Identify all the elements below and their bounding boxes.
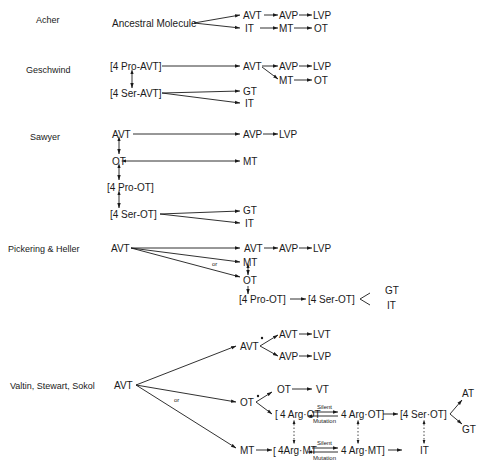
- author-label: Geschwind: [26, 65, 71, 75]
- node-avt: AVT: [279, 329, 298, 340]
- silent-label: Silent: [317, 440, 332, 446]
- arrow: [262, 67, 278, 79]
- node-lvp: LVP: [313, 243, 331, 254]
- node-ancestral-molecule: Ancestral Molecule: [112, 18, 197, 29]
- model-acher: Acher Ancestral Molecule AVT AVP LVP IT …: [36, 10, 331, 34]
- node-at: AT: [462, 388, 474, 399]
- or-label: or: [174, 397, 179, 403]
- node-4-arg-mt: 4 Arg·MT]: [341, 445, 385, 456]
- arrow: [256, 402, 272, 414]
- node-4-pro-ot: [4 Pro-OT]: [107, 182, 154, 193]
- arrow: [136, 346, 236, 385]
- model-geschwind: Geschwind [4 Pro-AVT] [4 Ser-AVT] GT IT …: [26, 61, 331, 109]
- node-4-pro-avt: [4 Pro-AVT]: [110, 61, 162, 72]
- node-lvt: LVT: [313, 329, 331, 340]
- node-4-ser-ot: [4 Ser-OT]: [308, 294, 355, 305]
- arrow: [160, 211, 240, 214]
- author-label: Acher: [36, 15, 60, 25]
- mutation-label: Mutation: [313, 455, 336, 461]
- node-4-arg-mt: 4Arg·MT: [278, 445, 317, 456]
- arrow: [131, 248, 240, 262]
- arrow: [260, 346, 278, 356]
- arrow: [260, 335, 278, 346]
- node-avp: AVP: [279, 61, 299, 72]
- node-ot: OT: [112, 156, 126, 167]
- node-4-arg-ot: 4 Arg·OT]: [341, 409, 385, 420]
- node-4-pro-ot: [4 Pro-OT]: [239, 294, 286, 305]
- node-4-ser-ot: [4 Ser-OT]: [110, 209, 157, 220]
- arrow: [136, 385, 236, 402]
- arrow: [194, 15, 240, 23]
- node-avt: AVT: [111, 243, 130, 254]
- arrow: [136, 385, 236, 448]
- node-lvp: LVP: [279, 129, 297, 140]
- node-it: IT: [420, 445, 429, 456]
- node-ot: OT: [243, 275, 257, 286]
- arrow: [194, 23, 240, 28]
- node-gt: GT: [243, 205, 257, 216]
- node-gt: GT: [385, 285, 399, 296]
- node-lvp: LVP: [313, 61, 331, 72]
- arrow: [160, 214, 240, 223]
- node-avp: AVP: [279, 10, 299, 21]
- silent-label: Silent: [317, 404, 332, 410]
- node-4-ser-ot: [4 Ser·OT]: [400, 409, 447, 420]
- node-gt: GT: [243, 86, 257, 97]
- node-mt: MT: [240, 445, 254, 456]
- dot-marker: [257, 395, 259, 397]
- node-avt: AVT: [244, 243, 263, 254]
- arrow: [450, 400, 462, 414]
- model-sawyer: Sawyer AVT AVP LVP OT MT [4 Pro-OT] [4 S…: [30, 129, 297, 229]
- node-avp: AVP: [243, 129, 263, 140]
- arrow: [162, 93, 240, 103]
- arrow: [450, 414, 462, 424]
- node-it: IT: [245, 23, 254, 34]
- node-it: IT: [245, 98, 254, 109]
- node-ot: OT: [277, 384, 291, 395]
- mutation-label: Mutation: [313, 418, 336, 424]
- author-label: Sawyer: [30, 132, 60, 142]
- node-lvp: LVP: [313, 10, 331, 21]
- node-mt: MT: [279, 75, 293, 86]
- arrow: [131, 248, 240, 277]
- node-avp: AVP: [279, 243, 299, 254]
- node-ot: OT: [240, 397, 254, 408]
- node-vt: VT: [316, 384, 329, 395]
- bracket-open: [: [273, 446, 276, 457]
- node-it: IT: [245, 218, 254, 229]
- node-avt: AVT: [112, 129, 131, 140]
- node-ot: OT: [314, 23, 328, 34]
- evolution-diagram: Acher Ancestral Molecule AVT AVP LVP IT …: [0, 0, 479, 467]
- node-avt: AVT: [243, 61, 262, 72]
- node-it: IT: [387, 300, 396, 311]
- node-avt: AVT: [243, 10, 262, 21]
- author-label: Valtin, Stewart, Sokol: [10, 381, 95, 391]
- node-avp: AVP: [279, 351, 299, 362]
- node-mt: MT: [279, 23, 293, 34]
- author-label: Pickering & Heller: [8, 244, 80, 254]
- branch-line: [360, 293, 370, 299]
- node-ot: OT: [314, 75, 328, 86]
- node-mt: MT: [243, 257, 257, 268]
- bracket-open: [: [275, 409, 278, 420]
- model-pickering-heller: Pickering & Heller AVT or AVT AVP LVP MT…: [8, 243, 399, 311]
- node-avt: AVT: [114, 380, 133, 391]
- dot-marker: [261, 337, 263, 339]
- node-avt: AVT: [240, 341, 259, 352]
- node-mt: MT: [243, 156, 257, 167]
- node-4-ser-avt: [4 Ser-AVT]: [110, 88, 162, 99]
- branch-line: [360, 299, 370, 305]
- node-lvp: LVP: [313, 351, 331, 362]
- or-label: or: [212, 261, 217, 267]
- arrow: [162, 91, 240, 93]
- node-gt: GT: [462, 424, 476, 435]
- model-valtin-stewart-sokol: Valtin, Stewart, Sokol AVT or AVT AVT LV…: [10, 329, 476, 461]
